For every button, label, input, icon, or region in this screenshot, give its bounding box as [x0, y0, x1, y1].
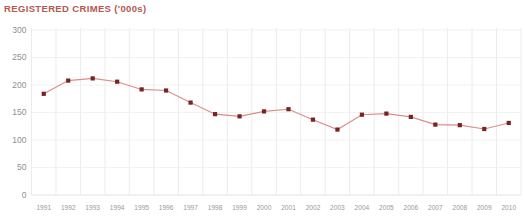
y-axis-tick-label: 50	[17, 162, 27, 172]
data-point-marker	[335, 127, 339, 131]
x-axis-tick-label: 1997	[183, 204, 198, 211]
data-point-marker	[360, 113, 364, 117]
y-axis-tick-label: 150	[12, 107, 26, 117]
x-axis-tick-label: 2001	[281, 204, 296, 211]
x-axis-tick-label: 1992	[61, 204, 76, 211]
data-point-marker	[66, 79, 70, 83]
data-point-marker	[164, 88, 168, 92]
registered-crimes-chart: REGISTERED CRIMES ('000s) 05010015020025…	[0, 0, 525, 220]
data-point-marker	[433, 123, 437, 127]
data-point-marker	[286, 107, 290, 111]
x-axis-tick-label: 2003	[330, 204, 345, 211]
data-point-marker	[409, 115, 413, 119]
x-axis-tick-label: 1998	[208, 204, 223, 211]
y-axis-tick-label: 100	[12, 135, 26, 145]
x-axis-tick-label: 1996	[159, 204, 174, 211]
data-point-marker	[237, 114, 241, 118]
data-point-marker	[458, 123, 462, 127]
x-axis-tick-label: 2005	[379, 204, 394, 211]
data-point-marker	[188, 101, 192, 105]
x-axis-tick-label: 2000	[257, 204, 272, 211]
x-axis-tick-label: 2004	[355, 204, 370, 211]
data-point-marker	[482, 127, 486, 131]
data-point-marker	[384, 112, 388, 116]
x-axis-tick-label: 2009	[477, 204, 492, 211]
x-axis-tick-label: 2007	[428, 204, 443, 211]
x-axis-tick-label: 1993	[85, 204, 100, 211]
y-axis-tick-label: 300	[12, 25, 26, 35]
y-axis-tick-label: 200	[12, 80, 26, 90]
x-axis-tick-label: 2008	[452, 204, 467, 211]
y-axis-tick-label: 0	[22, 190, 27, 200]
data-point-marker	[507, 121, 511, 125]
x-axis-tick-label: 1994	[110, 204, 125, 211]
x-axis-tick-label: 2010	[501, 204, 516, 211]
x-axis-tick-label: 1999	[232, 204, 247, 211]
x-axis-tick-label: 1995	[134, 204, 149, 211]
x-axis-tick-label: 2006	[404, 204, 419, 211]
x-axis-tick-label: 1991	[36, 204, 51, 211]
y-axis-tick-labels: 050100150200250300	[12, 25, 26, 200]
x-axis-tick-labels: 1991199219931994199519961997199819992000…	[36, 204, 516, 211]
data-point-marker	[115, 80, 119, 84]
x-axis-tick-label: 2002	[306, 204, 321, 211]
data-point-marker	[213, 112, 217, 116]
data-point-marker	[262, 109, 266, 113]
data-point-marker	[140, 87, 144, 91]
vertical-gridlines	[32, 28, 522, 195]
data-point-marker	[91, 76, 95, 80]
chart-plot-area: 050100150200250300 199119921993199419951…	[0, 0, 525, 220]
y-axis-tick-label: 250	[12, 52, 26, 62]
data-point-marker	[42, 92, 46, 96]
data-point-marker	[311, 118, 315, 122]
